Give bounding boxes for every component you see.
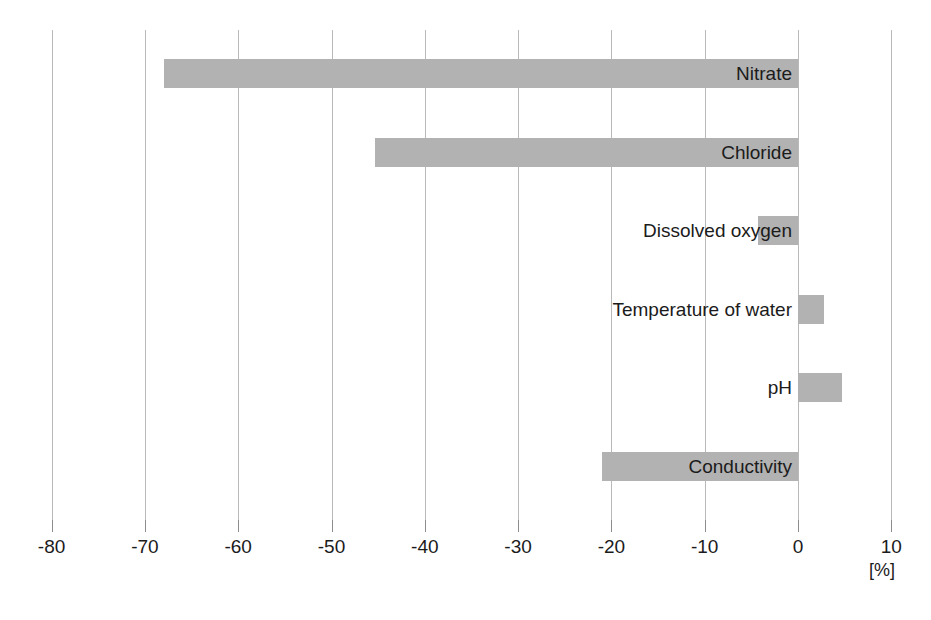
axis-tick-label: -60	[208, 536, 268, 558]
axis-tick-mark	[518, 520, 519, 532]
gridline	[425, 30, 426, 520]
gridline	[705, 30, 706, 520]
axis-tick-mark	[798, 520, 799, 532]
gridline	[52, 30, 53, 520]
axis-tick-label: -50	[302, 536, 362, 558]
axis-tick-mark	[52, 520, 53, 532]
axis-tick-label: 0	[768, 536, 828, 558]
axis-tick-mark	[705, 520, 706, 532]
plot-area: NitrateChlorideDissolved oxygenTemperatu…	[0, 0, 931, 520]
axis-tick-mark	[611, 520, 612, 532]
x-axis: -80-70-60-50-40-30-20-10010	[0, 520, 931, 580]
gridline	[518, 30, 519, 520]
axis-tick-label: -40	[395, 536, 455, 558]
axis-tick-label: -20	[581, 536, 641, 558]
axis-tick-label: -70	[115, 536, 175, 558]
bar-category-label: Chloride	[721, 138, 792, 167]
gridline	[145, 30, 146, 520]
gridline	[332, 30, 333, 520]
axis-tick-mark	[145, 520, 146, 532]
gridline	[798, 30, 799, 520]
bar-category-label: Nitrate	[736, 59, 792, 88]
gridline	[611, 30, 612, 520]
axis-tick-mark	[238, 520, 239, 532]
bar-category-label: Conductivity	[689, 452, 793, 481]
bar	[798, 295, 824, 324]
axis-tick-mark	[891, 520, 892, 532]
gridline	[238, 30, 239, 520]
bar	[164, 59, 798, 88]
axis-tick-label: -30	[488, 536, 548, 558]
axis-tick-label: 10	[861, 536, 921, 558]
bar-category-label: Dissolved oxygen	[643, 216, 792, 245]
bar	[798, 373, 842, 402]
axis-tick-mark	[425, 520, 426, 532]
axis-tick-label: -10	[675, 536, 735, 558]
axis-tick-label: -80	[22, 536, 82, 558]
bar-chart: NitrateChlorideDissolved oxygenTemperatu…	[0, 0, 931, 620]
gridline	[891, 30, 892, 520]
bar-category-label: pH	[768, 373, 792, 402]
axis-unit-label: [%]	[869, 560, 895, 581]
axis-tick-mark	[332, 520, 333, 532]
bar-category-label: Temperature of water	[612, 295, 792, 324]
